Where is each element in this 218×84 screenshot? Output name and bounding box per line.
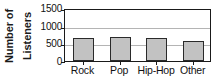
- y-tickmark-0: [61, 62, 65, 63]
- y-axis-title: Number of Listeners: [0, 0, 36, 72]
- y-axis-title-line-1: Number of: [3, 9, 15, 63]
- plot-area: [64, 9, 211, 62]
- x-axis-label-hip-hop: Hip-Hop: [138, 64, 175, 76]
- bar-rock: [73, 38, 94, 61]
- bar-hip-hop: [146, 38, 167, 61]
- y-tick-label-0: 0: [33, 57, 62, 67]
- y-tick-label-1000: 1000: [33, 22, 62, 32]
- y-tick-label-1500: 1500: [33, 4, 62, 14]
- bar-pop: [110, 37, 131, 61]
- bar-series: [65, 10, 210, 61]
- x-axis-category-labels: RockPopHip-HopOther: [64, 64, 211, 80]
- bar-other: [183, 41, 204, 61]
- y-tick-label-500: 500: [33, 39, 62, 49]
- y-axis-title-line-2: Listeners: [21, 12, 33, 60]
- bar-chart: Number of Listeners 1500 1000 500 0 Rock…: [0, 0, 218, 84]
- x-axis-label-other: Other: [174, 64, 211, 76]
- x-axis-label-rock: Rock: [64, 64, 101, 76]
- y-axis-tick-labels: 1500 1000 500 0: [33, 0, 62, 84]
- x-axis-label-pop: Pop: [101, 64, 138, 76]
